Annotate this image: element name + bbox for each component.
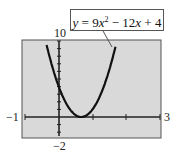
x-max-label: 3	[164, 110, 170, 125]
y-min-label: −2	[53, 139, 66, 154]
equation-label: y = 9x2 − 12x + 4	[70, 9, 164, 31]
eq-part: − 12	[108, 15, 135, 30]
x-min-label: −1	[6, 110, 19, 125]
eq-part: + 4	[141, 15, 161, 30]
y-max-label: 10	[54, 26, 66, 41]
plot-area	[22, 40, 161, 138]
eq-part: = 9	[78, 15, 98, 30]
